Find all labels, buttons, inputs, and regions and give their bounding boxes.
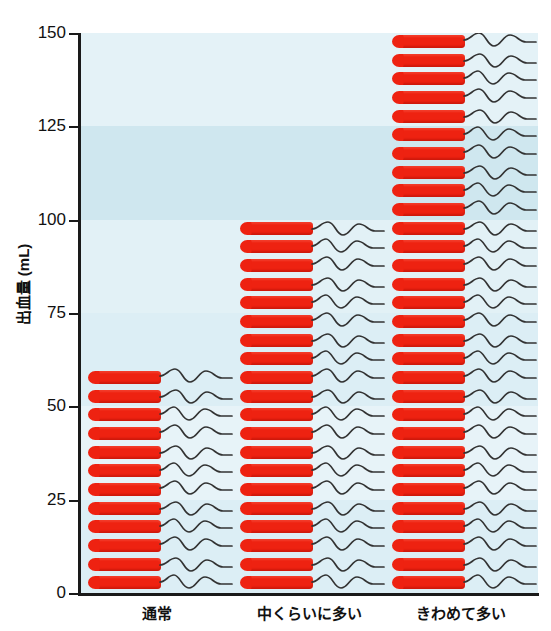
wavy-string-icon [160,555,232,574]
tampon-icon [397,520,465,533]
tampon-icon [245,464,313,477]
moderate-unit [241,480,385,499]
tampon-icon [245,483,313,496]
y-tick-mark-150 [69,33,79,35]
extreme-unit [393,349,537,368]
y-tick-mark-75 [69,313,79,315]
wavy-string-icon [312,368,384,387]
normal-unit [89,573,233,592]
wavy-string-icon [464,349,536,368]
wavy-string-icon [464,125,536,144]
moderate-unit [241,443,385,462]
tampon-icon [397,371,465,384]
moderate-unit [241,573,385,592]
extreme-unit [393,555,537,574]
tampon-icon [245,558,313,571]
wavy-string-icon [312,387,384,406]
y-tick-mark-100 [69,220,79,222]
y-tick-mark-0 [69,593,79,595]
extreme-unit [393,480,537,499]
wavy-string-icon [464,461,536,480]
extreme-unit [393,125,537,144]
wavy-string-icon [464,163,536,182]
wavy-string-icon [464,536,536,555]
y-tick-label-50: 50 [14,396,66,416]
tampon-icon [397,427,465,440]
x-axis-line [78,593,539,596]
wavy-string-icon [464,368,536,387]
wavy-string-icon [464,499,536,518]
tampon-icon [245,446,313,459]
y-tick-label-25: 25 [14,490,66,510]
wavy-string-icon [464,555,536,574]
moderate-unit [241,275,385,294]
tampon-icon [397,558,465,571]
x-label-extreme: きわめて多い [385,602,537,623]
wavy-string-icon [312,312,384,331]
column-moderate [233,33,385,593]
normal-unit [89,424,233,443]
tampon-icon [397,259,465,272]
extreme-unit [393,256,537,275]
tampon-icon [397,334,465,347]
extreme-unit [393,200,537,219]
tampon-icon [245,427,313,440]
tampon-icon [93,390,161,403]
tampon-icon [397,72,465,85]
wavy-string-icon [464,219,536,238]
x-axis-labels: 通常 中くらいに多い きわめて多い [81,598,538,630]
moderate-unit [241,312,385,331]
tampon-icon [245,408,313,421]
extreme-unit [393,517,537,536]
moderate-unit [241,405,385,424]
y-tick-label-75: 75 [14,303,66,323]
tampon-icon [397,296,465,309]
moderate-unit [241,256,385,275]
extreme-unit [393,573,537,592]
wavy-string-icon [312,405,384,424]
tampon-icon [397,464,465,477]
tampon-icon [397,128,465,141]
x-label-normal: 通常 [81,602,233,623]
moderate-unit [241,331,385,350]
extreme-unit [393,536,537,555]
y-tick-label-150: 150 [14,23,66,43]
wavy-string-icon [160,405,232,424]
wavy-string-icon [312,275,384,294]
tampon-icon [93,464,161,477]
wavy-string-icon [160,517,232,536]
tampon-icon [397,278,465,291]
wavy-string-icon [464,312,536,331]
wavy-string-icon [160,443,232,462]
tampon-icon [397,203,465,216]
normal-unit [89,368,233,387]
moderate-unit [241,517,385,536]
moderate-unit [241,349,385,368]
wavy-string-icon [464,443,536,462]
moderate-unit [241,536,385,555]
tampon-icon [397,483,465,496]
wavy-string-icon [464,573,536,592]
extreme-unit [393,219,537,238]
y-tick-mark-125 [69,126,79,128]
tampon-icon [245,352,313,365]
tampon-icon [245,222,313,235]
moderate-unit [241,424,385,443]
tampon-icon [93,520,161,533]
normal-unit [89,443,233,462]
wavy-string-icon [312,555,384,574]
y-tick-mark-25 [69,500,79,502]
tampon-icon [245,576,313,589]
normal-unit [89,405,233,424]
tampon-icon [397,390,465,403]
wavy-string-icon [312,480,384,499]
column-normal [81,33,233,593]
extreme-unit [393,424,537,443]
tampon-icon [397,222,465,235]
extreme-unit [393,163,537,182]
tampon-icon [397,446,465,459]
wavy-string-icon [464,275,536,294]
tampon-icon [93,483,161,496]
extreme-unit [393,405,537,424]
wavy-string-icon [312,424,384,443]
